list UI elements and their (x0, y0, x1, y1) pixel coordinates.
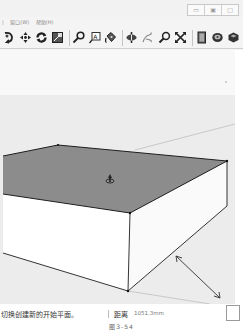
figure-caption: 图3-54 (0, 322, 243, 331)
toolbar-separator (69, 30, 70, 46)
toolbar-separator (122, 30, 123, 46)
pan-icon[interactable] (18, 31, 32, 45)
zoom-extents-icon[interactable] (173, 31, 187, 45)
menu-bar: | 窗口(W) 帮助(H) (0, 17, 243, 27)
paint-bucket-icon[interactable] (104, 31, 118, 45)
measurements-value[interactable]: 1051.3mm (134, 310, 164, 316)
3d-model-canvas[interactable] (0, 50, 235, 304)
status-message: 切换创建新的开始平面。 (1, 309, 78, 319)
materials-icon[interactable] (211, 31, 225, 45)
origin-dot (225, 81, 226, 82)
menu-window[interactable]: 窗口(W) (10, 19, 29, 25)
viewport-right-margin (235, 50, 243, 304)
minimize-button[interactable]: ▭ (188, 5, 204, 15)
measurements-label: 距离 (114, 309, 128, 319)
orbit-icon[interactable] (2, 31, 16, 45)
close-button[interactable]: □ (221, 5, 238, 15)
tape-measure-icon[interactable] (72, 31, 86, 45)
axes-icon[interactable] (125, 31, 139, 45)
toolbar-separator (192, 30, 193, 46)
scale-icon[interactable] (50, 31, 64, 45)
resize-grip-box[interactable] (226, 305, 240, 321)
window-controls: ▭ ▣ □ (187, 4, 239, 16)
drawing-viewport[interactable] (0, 50, 235, 304)
text-icon[interactable]: A (88, 31, 102, 45)
title-bar: ▭ ▣ □ (0, 0, 243, 17)
walk-icon[interactable] (141, 31, 155, 45)
sky (0, 50, 235, 95)
sketchup-window: ▭ ▣ □ | 窗口(W) 帮助(H) A (0, 0, 243, 322)
menu-help[interactable]: 帮助(H) (36, 19, 54, 25)
components-icon[interactable] (195, 31, 209, 45)
status-divider (108, 310, 109, 318)
menu-separator: | (2, 19, 4, 25)
status-bar: 切换创建新的开始平面。 距离 1051.3mm (0, 304, 243, 322)
rotate-icon[interactable] (34, 31, 48, 45)
restore-button[interactable]: ▣ (204, 5, 221, 15)
styles-icon[interactable] (227, 31, 241, 45)
toolbar: A (0, 27, 243, 49)
zoom-icon[interactable] (157, 31, 171, 45)
